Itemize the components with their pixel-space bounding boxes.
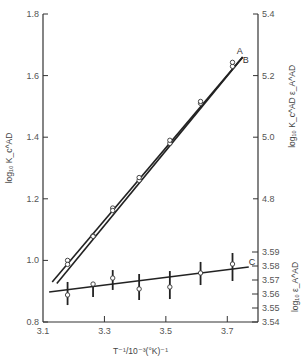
data-point-b — [198, 99, 202, 103]
chart: 3.13.33.53.70.81.01.21.41.61.84.85.05.25… — [0, 0, 306, 361]
y-right-inner-tick-label: 3.57 — [262, 275, 280, 285]
data-point-c — [91, 282, 95, 286]
y-left-axis-title: log₁₀ K_c^AD — [4, 133, 14, 184]
ticks — [43, 14, 258, 322]
fit-line-c — [49, 267, 249, 292]
axes — [43, 14, 258, 322]
y-left-tick-label: 1.6 — [26, 71, 39, 81]
fit-line-b — [57, 57, 243, 283]
y-right-outer-tick-label: 5.2 — [262, 71, 275, 81]
y-left-tick-label: 0.8 — [26, 317, 39, 327]
x-axis-title: T⁻¹/10⁻³(°K)⁻¹ — [113, 346, 168, 356]
y-right-inner-axis-title: log₁₀ ε_A^AD — [290, 262, 300, 312]
y-right-inner-tick-label: 3.55 — [262, 303, 280, 313]
data-point-b — [65, 262, 69, 266]
x-tick-label: 3.3 — [98, 326, 111, 336]
data-point-c — [111, 276, 115, 280]
y-right-inner-tick-label: 3.56 — [262, 289, 280, 299]
y-left-tick-label: 1.0 — [26, 255, 39, 265]
data-point-c — [65, 293, 69, 297]
data-point-c — [168, 285, 172, 289]
x-tick-label: 3.5 — [160, 326, 173, 336]
y-right-inner-tick-label: 3.54 — [262, 317, 280, 327]
data-point-b — [111, 208, 115, 212]
data-point-b — [168, 138, 172, 142]
fit-lines — [49, 57, 249, 292]
series-label-c: C — [249, 257, 256, 267]
y-right-outer-tick-label: 4.8 — [262, 194, 275, 204]
data-point-b — [137, 175, 141, 179]
y-right-outer-tick-label: 5.4 — [262, 9, 275, 19]
data-point-b — [91, 234, 95, 238]
y-left-tick-label: 1.8 — [26, 9, 39, 19]
y-right-outer-axis-title: log₁₀ K_c^AD ε_A^AD — [287, 65, 297, 148]
x-tick-label: 3.1 — [37, 326, 50, 336]
data-point-b — [230, 60, 234, 64]
y-left-tick-label: 1.4 — [26, 132, 39, 142]
data-point-c — [137, 287, 141, 291]
y-right-outer-tick-label: 5.0 — [262, 132, 275, 142]
y-right-inner-tick-label: 3.59 — [262, 247, 280, 257]
y-right-inner-tick-label: 3.58 — [262, 261, 280, 271]
x-tick-label: 3.7 — [221, 326, 234, 336]
series-label-b: B — [243, 55, 249, 65]
y-left-tick-label: 1.2 — [26, 194, 39, 204]
data-point-c — [198, 271, 202, 275]
data-point-c — [230, 262, 234, 266]
labels: 3.13.33.53.70.81.01.21.41.61.84.85.05.25… — [4, 9, 300, 356]
